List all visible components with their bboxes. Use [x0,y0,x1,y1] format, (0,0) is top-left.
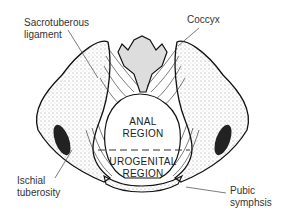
label-ischial-tuberosity: Ischial tuberosity [17,175,60,199]
label-line: REGION [110,128,176,140]
label-line: REGION [106,168,180,180]
label-line: Ischial [17,175,60,187]
label-line: tuberosity [17,187,60,199]
label-line: Coccyx [187,14,220,26]
label-line: UROGENITAL [106,156,180,168]
label-line: ligament [24,29,89,41]
label-line: Sacrotuberous [24,17,89,29]
anal-region-label: ANAL REGION [110,116,176,140]
label-line: ANAL [110,116,176,128]
label-pubic-symphysis: Pubic symphsis [230,185,272,209]
label-line: Pubic [230,185,272,197]
pelvic-outlet-diagram: Sacrotuberous ligament Coccyx Ischial tu… [0,0,285,217]
label-coccyx: Coccyx [187,14,220,26]
label-line: symphsis [230,197,272,209]
urogenital-region-label: UROGENITAL REGION [106,156,180,180]
coccyx-shape [118,36,167,92]
label-sacrotuberous-ligament: Sacrotuberous ligament [24,17,89,41]
